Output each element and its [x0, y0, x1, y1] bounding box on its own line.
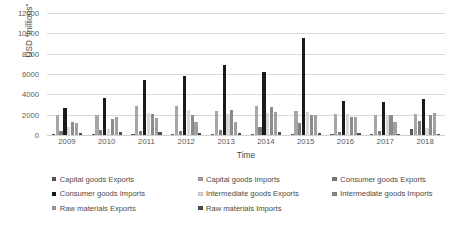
y-axis-tick-label: 8000: [22, 49, 39, 58]
bar: [234, 122, 237, 135]
bar: [274, 112, 277, 135]
x-axis-tick-label: 2014: [246, 137, 286, 149]
bar: [342, 101, 345, 135]
bar-cluster: [206, 13, 246, 135]
bar-cluster: [87, 13, 127, 135]
bar: [63, 108, 66, 135]
legend-label: Raw materials Imports: [206, 204, 282, 213]
legend-swatch-icon: [332, 192, 336, 196]
bar: [262, 72, 265, 135]
bar: [135, 106, 138, 135]
x-axis-tick-labels: 2009201020112012201320142015201620172018: [47, 137, 445, 149]
bar: [291, 134, 294, 135]
bar: [294, 111, 297, 135]
bar: [255, 106, 258, 135]
bar: [354, 117, 357, 136]
bar: [75, 123, 78, 135]
bar: [382, 102, 385, 135]
y-axis-tick-label: 2000: [22, 110, 39, 119]
bar: [194, 122, 197, 135]
legend-swatch-icon: [198, 206, 202, 210]
bar: [115, 117, 118, 135]
bar: [111, 119, 114, 135]
x-axis-tick-label: 2011: [127, 137, 167, 149]
bar: [306, 112, 309, 135]
x-axis-tick-label: 2010: [87, 137, 127, 149]
legend-item[interactable]: Consumer goods Imports: [52, 187, 198, 202]
bar: [107, 129, 110, 135]
bar: [198, 133, 201, 135]
legend-item[interactable]: Intermediate goods Imports: [332, 187, 447, 202]
bar: [302, 38, 305, 135]
x-axis-title: Time: [47, 150, 445, 160]
legend-label: Intermediate goods Exports: [206, 189, 299, 198]
bar: [370, 134, 373, 135]
bar: [437, 134, 440, 135]
bar: [151, 114, 154, 135]
bar: [52, 134, 55, 135]
bar: [251, 134, 254, 135]
legend-label: Consumer goods Exports: [340, 175, 426, 184]
legend-item[interactable]: Capital goods Exports: [52, 172, 198, 187]
bar: [103, 98, 106, 135]
bar: [67, 127, 70, 135]
x-axis-tick-label: 2012: [166, 137, 206, 149]
legend-swatch-icon: [198, 177, 202, 181]
bar: [338, 132, 341, 135]
bar-cluster: [246, 13, 286, 135]
y-axis-tick-label: 4000: [22, 90, 39, 99]
legend-item[interactable]: Raw materials Exports: [52, 201, 198, 216]
bar: [179, 131, 182, 135]
legend-label: Capital goods Exports: [60, 175, 134, 184]
bar-cluster: [127, 13, 167, 135]
bar-cluster: [365, 13, 405, 135]
x-axis-tick-label: 2015: [286, 137, 326, 149]
bar-cluster: [405, 13, 445, 135]
legend-item[interactable]: Consumer goods Exports: [332, 172, 447, 187]
legend-item[interactable]: Capital goods Imports: [198, 172, 332, 187]
legend-swatch-icon: [52, 192, 56, 196]
legend-item[interactable]: Intermediate goods Exports: [198, 187, 332, 202]
bar: [147, 113, 150, 135]
y-axis-tick-label: 6000: [22, 70, 39, 79]
bar: [191, 115, 194, 135]
bar: [425, 128, 428, 135]
legend-swatch-icon: [52, 177, 56, 181]
y-axis-tick-label: 12000: [18, 9, 39, 18]
bar: [389, 115, 392, 135]
bar: [215, 111, 218, 135]
bar: [226, 114, 229, 135]
bar: [270, 107, 273, 135]
bar: [393, 122, 396, 135]
bar: [183, 76, 186, 135]
bar-chart: USD "millions" 0200040006000800010000120…: [0, 0, 453, 235]
gridline: [47, 135, 445, 136]
bar: [334, 114, 337, 135]
bar: [92, 134, 95, 135]
bar: [143, 80, 146, 135]
bar: [238, 133, 241, 135]
bar: [410, 129, 413, 135]
x-axis-tick-label: 2013: [206, 137, 246, 149]
x-axis-tick-label: 2016: [326, 137, 366, 149]
bar: [318, 133, 321, 135]
bar: [397, 134, 400, 135]
bar: [258, 127, 261, 135]
bar: [378, 131, 381, 135]
bar: [131, 134, 134, 135]
bar: [357, 133, 360, 135]
bar: [346, 114, 349, 135]
bar: [59, 131, 62, 135]
bar-cluster: [47, 13, 87, 135]
legend-item[interactable]: Raw materials Imports: [198, 201, 332, 216]
bar-cluster: [166, 13, 206, 135]
legend-label: Consumer goods Imports: [60, 189, 145, 198]
plot-area: [47, 13, 445, 135]
bar: [230, 110, 233, 135]
bar: [278, 132, 281, 135]
bar: [211, 134, 214, 135]
bar: [219, 130, 222, 135]
chart-legend: Capital goods ExportsCapital goods Impor…: [52, 172, 447, 216]
x-axis-tick-label: 2018: [405, 137, 445, 149]
bar: [175, 106, 178, 135]
